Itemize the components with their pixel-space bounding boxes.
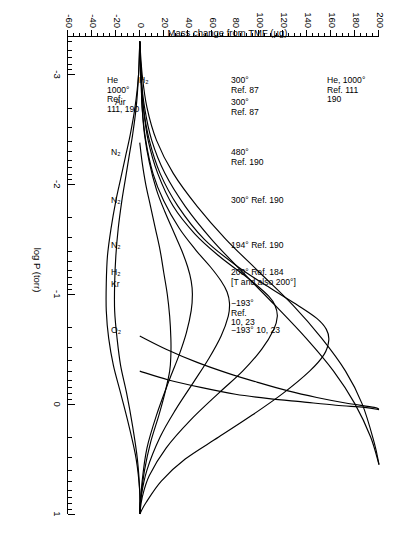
annotation-he-1000-low: He1000°Ref.111, 190 xyxy=(107,76,139,115)
chart-figure: -3-2-101 200180160140120100806040200-20-… xyxy=(0,0,393,540)
rotated-figure-wrapper: -3-2-101 200180160140120100806040200-20-… xyxy=(0,0,393,540)
annotation-line: Air xyxy=(115,98,126,108)
annotation-line: −193° 10, 23 xyxy=(231,326,280,336)
annotation-h2-200: 200° Ref. 184[T and also 200°] xyxy=(231,268,296,287)
curve-h2 xyxy=(140,143,171,514)
y-tick-label: -60 xyxy=(64,0,75,28)
annotation-line: 300° Ref. 190 xyxy=(231,196,284,206)
annotation-line: N₂ xyxy=(111,148,121,158)
y-tick-label: -40 xyxy=(88,0,99,28)
annotation-line: N₂ xyxy=(111,241,121,251)
annotation-o2: −193° 10, 23 xyxy=(231,326,280,336)
y-tick-label: 40 xyxy=(184,0,195,28)
x-tick-label: 0 xyxy=(52,389,63,419)
annotation-line: 190 xyxy=(327,95,365,105)
y-tick-label: 180 xyxy=(351,0,362,28)
annotation-n2-480: 480°Ref. 190 xyxy=(231,148,264,167)
x-tick-label: 1 xyxy=(52,499,63,529)
y-tick-label: 200 xyxy=(375,0,386,28)
y-tick-label: 160 xyxy=(327,0,338,28)
curve-he xyxy=(140,41,379,464)
x-tick-label: -2 xyxy=(52,169,63,199)
annotation-air-symbol: Air xyxy=(115,98,126,108)
annotation-line: H₂ xyxy=(111,268,121,278)
annotation-n2-300: 300° Ref. 190 xyxy=(231,196,284,206)
y-tick-label: 120 xyxy=(279,0,290,28)
annotation-n2-symbol-a: N₂ xyxy=(111,148,121,158)
annotation-h2-300-ref87: 300°Ref. 87 xyxy=(231,76,259,95)
annotation-line: H₂ xyxy=(139,76,149,86)
annotation-o2-symbol: O₂ xyxy=(111,326,121,336)
annotation-h2-symbol-b: H₂ xyxy=(111,268,121,278)
annotation-n2-symbol-b: N₂ xyxy=(111,196,121,206)
curve-he xyxy=(140,336,379,410)
curve-h2 xyxy=(140,371,379,409)
y-tick-label: 140 xyxy=(303,0,314,28)
annotation-h2-symbol: H₂ xyxy=(139,76,149,86)
annotation-kr: −193°Ref.10, 23 xyxy=(231,299,255,328)
y-tick-label: 0 xyxy=(136,0,147,28)
annotation-line: O₂ xyxy=(111,326,121,336)
annotation-line: 194° Ref. 190 xyxy=(231,241,284,251)
figure-page: -3-2-101 200180160140120100806040200-20-… xyxy=(0,0,393,540)
annotation-line: Kr xyxy=(111,280,120,290)
annotation-kr-symbol: Kr xyxy=(111,280,120,290)
annotation-line: [T and also 200°] xyxy=(231,278,296,288)
annotation-line: N₂ xyxy=(111,196,121,206)
curve-h2 xyxy=(140,41,379,464)
annotation-line: Ref. 190 xyxy=(231,158,264,168)
x-tick-major xyxy=(68,514,75,515)
annotation-he-1000-top: He, 1000°Ref. 111190 xyxy=(327,76,365,105)
x-tick-label: -3 xyxy=(52,59,63,89)
y-tick-label: 20 xyxy=(160,0,171,28)
y-tick-label: -20 xyxy=(112,0,123,28)
annotation-n2-194: 194° Ref. 190 xyxy=(231,241,284,251)
annotation-air-300-ref87: 300°Ref. 87 xyxy=(231,98,259,117)
y-tick-label: 60 xyxy=(208,0,219,28)
x-axis-title: log P (torr) xyxy=(32,0,43,540)
curve-n2 xyxy=(140,41,230,514)
x-tick-label: -1 xyxy=(52,279,63,309)
annotation-n2-symbol-c: N₂ xyxy=(111,241,121,251)
annotation-line: Ref. 87 xyxy=(231,108,259,118)
annotation-line: Ref. 87 xyxy=(231,86,259,96)
y-tick-label: 80 xyxy=(231,0,242,28)
y-tick-label: 100 xyxy=(255,0,266,28)
